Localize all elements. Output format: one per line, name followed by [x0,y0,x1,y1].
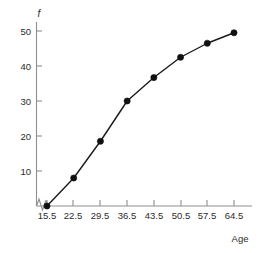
y-tick-label-50: 50 [20,26,31,37]
x-tick-label-43-5: 43.5 [145,210,164,221]
data-point [44,203,50,209]
data-point [204,40,210,46]
data-point [151,74,157,80]
data-point [97,138,103,144]
x-tick-label-29-5: 29.5 [91,210,110,221]
chart-canvas: 50 40 30 20 10 f 15.5 22.5 29.5 36.5 43.… [0,0,260,253]
x-axis-ticks [47,200,234,206]
x-axis-title: Age [232,233,249,244]
x-tick-label-50-5: 50.5 [172,210,191,221]
x-tick-label-15-5: 15.5 [38,210,57,221]
data-point [71,175,77,181]
data-point [124,98,130,104]
y-tick-label-30: 30 [20,96,31,107]
ogive-chart: 50 40 30 20 10 f 15.5 22.5 29.5 36.5 43.… [0,0,260,253]
data-point-markers [44,30,237,209]
y-tick-label-40: 40 [20,61,31,72]
x-tick-label-57-5: 57.5 [198,210,217,221]
x-tick-label-36-5: 36.5 [118,210,137,221]
y-axis-ticks [37,31,43,171]
x-tick-label-64-5: 64.5 [225,210,244,221]
y-tick-label-20: 20 [20,131,31,142]
y-axis-title: f [38,8,42,19]
y-tick-label-10: 10 [20,166,31,177]
x-tick-label-22-5: 22.5 [64,210,83,221]
data-point [177,54,183,60]
data-point [231,30,237,36]
